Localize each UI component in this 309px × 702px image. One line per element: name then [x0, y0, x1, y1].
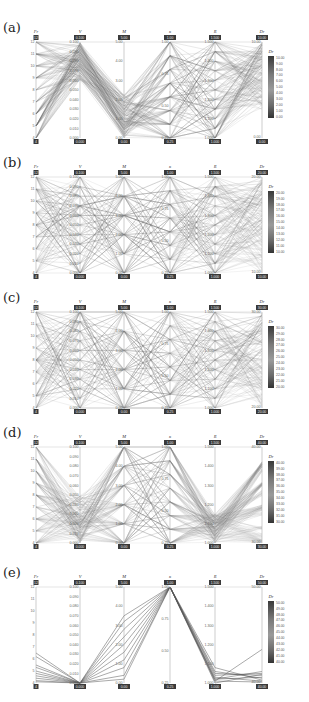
axis-name: V [79, 434, 83, 439]
svg-text:Dr: Dr [267, 184, 273, 189]
legend-tick: 40.00 [276, 461, 285, 465]
axis-name: κ [169, 29, 172, 34]
svg-text:1.500: 1.500 [211, 581, 220, 585]
tick-label: 0.060 [70, 349, 79, 353]
tick-label: 0.040 [70, 368, 79, 372]
axis-Fr[interactable]: Fr124121110987654 [31, 164, 39, 279]
tick-label: 0.000 [70, 541, 79, 545]
tick-label: 0.75 [162, 207, 169, 211]
tick-label: 0.010 [70, 532, 79, 536]
tick-label: 1.200 [205, 368, 214, 372]
tick-label: 1.00 [116, 252, 123, 256]
tick-label: 0.020 [70, 662, 79, 666]
axis-Fr[interactable]: Fr124121110987654 [31, 29, 39, 144]
legend-tick: 10.00 [276, 56, 285, 60]
tick-label: 3.00 [116, 79, 123, 83]
tick-label: 4.00 [116, 329, 123, 333]
svg-text:5.00: 5.00 [121, 581, 128, 585]
legend-tick: 37.00 [276, 478, 285, 482]
tick-label: 1.100 [205, 387, 214, 391]
svg-text:40.00: 40.00 [252, 445, 261, 449]
tick-label: 0.070 [70, 204, 79, 208]
tick-label: 0.50 [162, 509, 169, 513]
tick-label: 0.00 [116, 541, 123, 545]
tick-label: 0.100 [70, 445, 79, 449]
svg-text:4: 4 [35, 685, 37, 689]
svg-text:0.100: 0.100 [76, 581, 85, 585]
svg-text:1.00: 1.00 [167, 306, 174, 310]
tick-label: 0.040 [70, 233, 79, 237]
axis-name: M [121, 574, 126, 579]
tick-label: 0.75 [162, 477, 169, 481]
legend-tick: 20.00 [276, 385, 285, 389]
tick-label: 3.00 [116, 484, 123, 488]
tick-label: 3.00 [116, 349, 123, 353]
tick-label: 5 [33, 124, 35, 128]
axis-Dr[interactable]: Dr50.0040.00 [256, 574, 268, 689]
tick-label: 5.00 [116, 175, 123, 179]
axis-Dr[interactable]: Dr30.0020.00 [256, 299, 268, 414]
legend-tick: 45.00 [276, 630, 285, 634]
legend-tick: 18.00 [276, 203, 285, 207]
axis-Dr[interactable]: Dr10.000.00 [256, 29, 268, 144]
axis-V[interactable]: V0.1000.0000.1000.0900.0800.0700.0600.05… [70, 574, 87, 689]
axis-Fr[interactable]: Fr124121110987654 [31, 434, 39, 549]
axis-name: R [213, 29, 217, 34]
tick-label: 1.400 [205, 329, 214, 333]
legend-tick: 7.00 [276, 73, 283, 77]
panel-e: (e)Fr124121110987654V0.1000.0000.1000.09… [0, 565, 309, 690]
tick-label: 0.070 [70, 614, 79, 618]
tick-label: 0.000 [70, 136, 79, 140]
tick-label: 0.040 [70, 503, 79, 507]
axis-name: Dr [258, 299, 264, 304]
tick-label: 1.300 [205, 624, 214, 628]
axis-name: V [79, 164, 83, 169]
tick-label: 0.00 [116, 681, 123, 685]
tick-label: 6 [33, 382, 35, 386]
tick-label: 8 [33, 223, 35, 227]
tick-label: 6 [33, 247, 35, 251]
tick-label: 0.060 [70, 214, 79, 218]
tick-label: 1.00 [162, 585, 169, 589]
axis-name: V [79, 299, 83, 304]
legend-tick: 4.00 [276, 91, 283, 95]
tick-label: 7 [33, 100, 35, 104]
legend-tick: 21.00 [276, 379, 285, 383]
tick-label: 8 [33, 493, 35, 497]
tick-label: 0.50 [162, 649, 169, 653]
tick-label: 8 [33, 358, 35, 362]
axis-name: Fr [33, 299, 39, 304]
tick-label: 8 [33, 88, 35, 92]
tick-label: 2.00 [116, 503, 123, 507]
axis-name: Fr [33, 29, 39, 34]
axis-name: Dr [258, 434, 264, 439]
tick-label: 0.090 [70, 595, 79, 599]
tick-label: 11 [31, 52, 35, 56]
tick-label: 1.300 [205, 79, 214, 83]
parallel-coordinates-plot: Fr124121110987654V0.1000.0000.1000.0900.… [0, 290, 309, 415]
tick-label: 1.500 [205, 310, 214, 314]
svg-text:30.00: 30.00 [258, 306, 267, 310]
tick-label: 1.300 [205, 349, 214, 353]
tick-label: 0.030 [70, 512, 79, 516]
tick-label: 0.050 [70, 88, 79, 92]
axis-Dr[interactable]: Dr40.0030.00 [256, 434, 268, 549]
tick-label: 5.00 [116, 310, 123, 314]
tick-label: 12 [31, 310, 35, 314]
axis-Fr[interactable]: Fr124121110987654 [31, 299, 39, 414]
color-legend: Dr30.0029.0028.0027.0026.0025.0024.0023.… [267, 319, 284, 389]
legend-tick: 24.00 [276, 361, 285, 365]
tick-label: 0.50 [162, 104, 169, 108]
legend-tick: 5.00 [276, 85, 283, 89]
svg-text:20.00: 20.00 [252, 175, 261, 179]
parallel-coordinates-plot: Fr124121110987654V0.1000.0000.1000.0900.… [0, 565, 309, 690]
tick-label: 1.00 [116, 387, 123, 391]
tick-label: 0.000 [70, 406, 79, 410]
legend-tick: 32.00 [276, 508, 285, 512]
tick-label: 0.030 [70, 242, 79, 246]
color-legend: Dr10.009.008.007.006.005.004.003.002.001… [267, 49, 284, 119]
tick-label: 0.020 [70, 522, 79, 526]
svg-text:Dr: Dr [267, 49, 273, 54]
svg-text:12: 12 [34, 306, 38, 310]
axis-Fr[interactable]: Fr124121110987654 [31, 574, 39, 689]
